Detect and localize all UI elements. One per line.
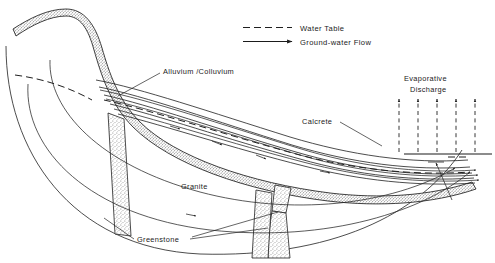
water-table-left-segment [15, 75, 92, 100]
water-table [15, 75, 470, 173]
granite-lower-boundary [6, 46, 462, 254]
cross-section-figure: Water Table Ground-water Flow [0, 0, 495, 263]
water-table-basin-segment [104, 100, 470, 173]
legend-item-water-table: Water Table [243, 24, 345, 33]
greenstone-dyke-left [108, 113, 131, 236]
label-alluvium-colluvium: Alluvium /Colluvium [163, 67, 234, 76]
leader-lines [104, 73, 382, 239]
legend-label-water-table: Water Table [300, 24, 345, 33]
leader-calcrete [340, 122, 382, 146]
greenstone-dyke-right-upper [272, 185, 291, 213]
legend: Water Table Ground-water Flow [243, 24, 371, 47]
label-greenstone: Greenstone [137, 235, 179, 244]
label-calcrete: Calcrete [302, 117, 332, 126]
granite-basement [6, 46, 462, 254]
leader-alluvium [118, 73, 160, 96]
flow-arrow-marker-deep [186, 214, 196, 216]
alluvium-layer-2 [99, 87, 470, 168]
legend-label-ground-water-flow: Ground-water Flow [300, 38, 371, 47]
alluvium-calcrete-layers [96, 80, 475, 184]
cross-section-drawing: Water Table Ground-water Flow [0, 0, 495, 263]
label-granite: Granite [181, 182, 208, 191]
label-evaporative-discharge-line1: Evaporative [404, 74, 447, 83]
flow-line-deep [28, 84, 470, 233]
legend-item-ground-water-flow: Ground-water Flow [243, 38, 371, 47]
greenstone-dyke-right-lower [268, 211, 290, 258]
greenstone-dyke-right-branch [252, 190, 272, 258]
label-evaporative-discharge-line2: Discharge [410, 85, 446, 94]
evaporative-discharge-arrows [399, 99, 475, 152]
